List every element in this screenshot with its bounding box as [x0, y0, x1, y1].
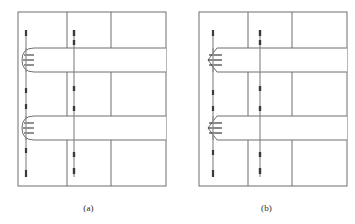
beam-b-lower [208, 116, 347, 140]
beam-b-lower-outline [208, 116, 347, 140]
panel-a-caption: (a) [0, 203, 177, 213]
frame-outline-b [199, 12, 347, 186]
beam-a-upper [22, 48, 166, 72]
beam-b-upper-outline [208, 48, 347, 72]
figure-panel-b: (b) [178, 0, 355, 224]
panel-b-caption: (b) [178, 203, 355, 213]
beam-a-lower [22, 116, 166, 140]
panel-b-drawing [178, 0, 355, 200]
panel-a-drawing [0, 0, 177, 200]
frame-outline-a [18, 12, 166, 186]
figure-root: (a) [0, 0, 355, 224]
beam-b-upper [208, 48, 347, 72]
figure-panel-a: (a) [0, 0, 177, 224]
beam-a-upper-outline [22, 48, 166, 72]
beam-a-lower-outline [22, 116, 166, 140]
